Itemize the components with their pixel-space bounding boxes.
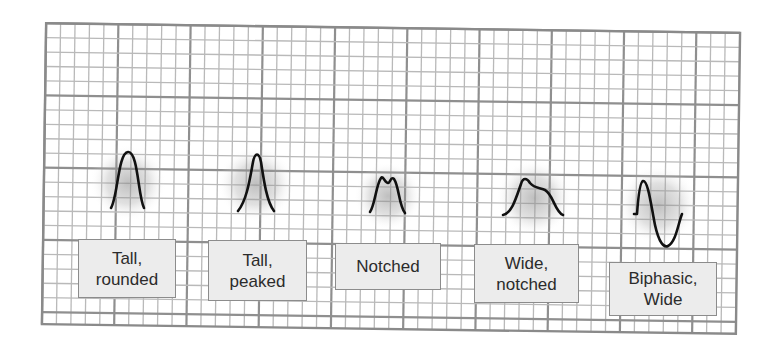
label-tall-peaked: Tall, peaked <box>208 240 307 301</box>
label-notched: Notched <box>335 243 441 290</box>
notched-glow <box>354 162 422 230</box>
label-tall-rounded: Tall, rounded <box>78 239 176 298</box>
tall-rounded-glow <box>90 145 166 221</box>
label-biphasic-wide: Biphasic, Wide <box>609 262 717 316</box>
label-wide-notched: Wide, notched <box>474 244 579 303</box>
wide-notched-glow <box>496 160 572 236</box>
tall-peaked-glow <box>218 146 294 222</box>
ecg-waveform-diagram: Tall, rounded Tall, peaked Notched Wide,… <box>0 0 774 361</box>
